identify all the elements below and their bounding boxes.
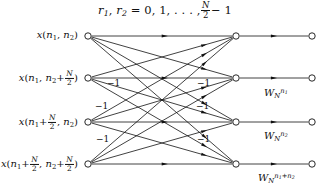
middle-node-2 bbox=[233, 119, 239, 125]
middle-node-1 bbox=[233, 75, 239, 81]
arrowhead-stage2-1 bbox=[271, 76, 277, 79]
arrowhead-stage1-1-0 bbox=[201, 44, 207, 47]
arrowheads-layer bbox=[162, 34, 277, 165]
edges-layer bbox=[91, 36, 308, 164]
arrowhead-stage1-3-2 bbox=[201, 130, 207, 133]
middle-node-0 bbox=[233, 33, 239, 39]
input-node-1 bbox=[85, 75, 91, 81]
arrowhead-stage1-2-3 bbox=[201, 153, 207, 156]
arrowhead-stage1-3-3 bbox=[162, 162, 168, 165]
signal-flow-graph bbox=[0, 0, 330, 188]
output-node-2 bbox=[309, 119, 315, 125]
input-node-0 bbox=[85, 33, 91, 39]
arrowhead-stage1-0-0 bbox=[162, 34, 168, 37]
arrowhead-stage2-0 bbox=[271, 34, 277, 37]
arrowhead-stage1-2-0 bbox=[201, 53, 207, 57]
input-node-2 bbox=[85, 119, 91, 125]
arrowhead-stage1-0-2 bbox=[201, 101, 207, 105]
figure-canvas: r1, r2 = 0, 1, . . . ,N2− 1 x(n1, n2) x(… bbox=[0, 0, 330, 188]
arrowhead-stage1-0-1 bbox=[201, 67, 207, 70]
output-node-0 bbox=[309, 33, 315, 39]
nodes-layer bbox=[85, 33, 315, 167]
output-node-1 bbox=[309, 75, 315, 81]
output-node-3 bbox=[309, 161, 315, 167]
arrowhead-stage1-1-3 bbox=[201, 143, 207, 147]
input-node-3 bbox=[85, 161, 91, 167]
arrowhead-stage1-3-1 bbox=[201, 95, 207, 99]
arrowhead-stage1-1-2 bbox=[201, 110, 207, 113]
arrowhead-stage2-3 bbox=[271, 162, 277, 165]
arrowhead-stage1-2-1 bbox=[201, 87, 207, 90]
arrowhead-stage2-2 bbox=[271, 120, 277, 123]
middle-node-3 bbox=[233, 161, 239, 167]
